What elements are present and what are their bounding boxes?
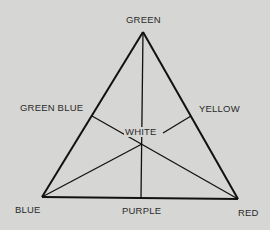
median-blue-white	[42, 144, 142, 197]
median-greenblue-red	[92, 116, 238, 199]
triangle-figure	[0, 0, 270, 230]
edge-green-red	[143, 32, 238, 199]
vertex-label-blue: BLUE	[15, 205, 41, 215]
edge-blue-red	[42, 197, 238, 199]
center-label-white: WHITE	[124, 127, 158, 137]
midpoint-label-purple: PURPLE	[122, 206, 161, 216]
vertex-label-green: GREEN	[126, 15, 161, 25]
median-yellow-white	[163, 116, 191, 133]
edge-green-blue	[42, 32, 143, 197]
midpoint-label-yellow: YELLOW	[199, 104, 240, 114]
vertex-label-red: RED	[238, 208, 259, 218]
midpoint-label-green-blue: GREEN BLUE	[20, 103, 83, 113]
median-green-purple	[141, 32, 143, 198]
color-triangle-diagram: GREEN GREEN BLUE YELLOW WHITE BLUE PURPL…	[0, 0, 270, 230]
